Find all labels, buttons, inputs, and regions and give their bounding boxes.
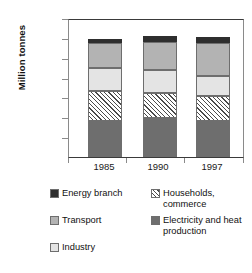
legend-item-electricity[interactable]: Electricity and heat production	[151, 215, 242, 236]
segment-households	[196, 96, 230, 121]
segment-households	[88, 91, 122, 120]
industry-swatch-icon	[50, 243, 59, 252]
x-tick-label-1997: 1997	[182, 161, 242, 172]
x-tick-label-1990: 1990	[128, 161, 188, 172]
legend-label: Electricity and heat production	[163, 215, 242, 236]
x-tick-mark	[243, 158, 244, 163]
chart-legend: Energy branch Households, commerce Trans…	[50, 188, 252, 270]
segment-energy-branch	[196, 37, 230, 43]
segment-energy-branch	[143, 36, 177, 41]
plot-area	[68, 19, 244, 158]
segment-electricity	[143, 118, 177, 157]
energy-branch-swatch-icon	[50, 189, 59, 198]
legend-label: Transport	[62, 215, 101, 226]
segment-transport	[143, 42, 177, 70]
stacked-bar-chart: Million tonnes 3,500 3,000 2,500 2,000 1…	[0, 0, 252, 273]
households-swatch-icon	[151, 189, 160, 198]
segment-energy-branch	[88, 39, 122, 43]
legend-item-industry[interactable]: Industry	[50, 242, 95, 253]
segment-industry	[143, 70, 177, 94]
segment-electricity	[196, 121, 230, 157]
electricity-swatch-icon	[151, 216, 160, 225]
segment-households	[143, 93, 177, 118]
segment-transport	[196, 43, 230, 76]
x-tick-label-1985: 1985	[74, 161, 134, 172]
legend-item-households[interactable]: Households, commerce	[151, 188, 252, 209]
y-axis-title: Million tonnes	[16, 3, 27, 113]
legend-label: Industry	[62, 242, 95, 253]
x-tick-mark	[68, 158, 69, 163]
segment-electricity	[88, 121, 122, 158]
legend-item-transport[interactable]: Transport	[50, 215, 101, 226]
transport-swatch-icon	[50, 216, 59, 225]
legend-item-energy-branch[interactable]: Energy branch	[50, 188, 122, 199]
legend-label: Households, commerce	[163, 188, 252, 209]
segment-industry	[196, 76, 230, 96]
segment-transport	[88, 43, 122, 67]
legend-label: Energy branch	[62, 188, 122, 199]
segment-industry	[88, 68, 122, 92]
